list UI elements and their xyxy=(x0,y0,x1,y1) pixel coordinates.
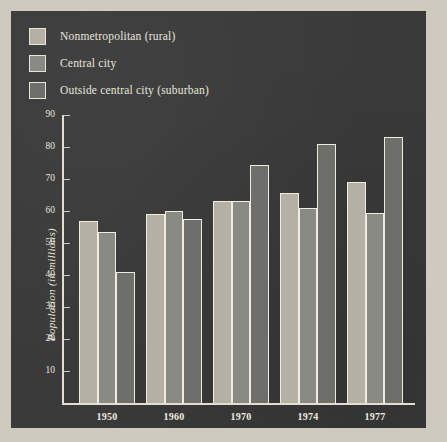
y-axis-line xyxy=(62,115,64,404)
y-axis-tick xyxy=(63,243,70,244)
x-axis-category-label: 1970 xyxy=(216,411,266,422)
y-axis-tick xyxy=(63,307,70,308)
bar xyxy=(384,137,403,403)
y-axis-tick xyxy=(63,147,70,148)
y-axis-tick xyxy=(63,115,70,116)
y-axis-tick-label: 80 xyxy=(37,141,55,151)
legend-label-central-city: Central city xyxy=(60,57,116,69)
legend-swatch-central-city xyxy=(29,55,46,72)
x-axis-category-label: 1974 xyxy=(283,411,333,422)
legend-item-nonmetropolitan: Nonmetropolitan (rural) xyxy=(29,24,209,48)
y-axis-tick xyxy=(63,275,70,276)
bar xyxy=(213,201,232,403)
y-axis-tick-label: 70 xyxy=(37,173,55,183)
bar xyxy=(98,232,117,403)
chart-page: Nonmetropolitan (rural) Central city Out… xyxy=(0,0,447,442)
x-axis-category-label: 1977 xyxy=(350,411,400,422)
legend-item-central-city: Central city xyxy=(29,51,209,75)
bar xyxy=(347,182,366,403)
legend-swatch-nonmetropolitan xyxy=(29,28,46,45)
bar xyxy=(116,272,135,403)
bar xyxy=(165,211,184,403)
bar xyxy=(250,165,269,403)
legend-label-nonmetropolitan: Nonmetropolitan (rural) xyxy=(60,30,175,42)
bar xyxy=(280,193,299,403)
chart-panel: Nonmetropolitan (rural) Central city Out… xyxy=(11,11,426,428)
y-axis-tick xyxy=(63,179,70,180)
bar xyxy=(146,214,165,403)
bar xyxy=(79,221,98,403)
bar xyxy=(366,213,385,403)
bar xyxy=(183,219,202,403)
y-axis-tick-label: 90 xyxy=(37,109,55,119)
legend-item-outside-central-city: Outside central city (suburban) xyxy=(29,78,209,102)
y-axis-tick xyxy=(63,371,70,372)
y-axis-tick-label: 10 xyxy=(37,365,55,375)
bar xyxy=(232,201,251,403)
bar xyxy=(317,144,336,403)
bar xyxy=(299,208,318,403)
x-axis-category-label: 1950 xyxy=(82,411,132,422)
y-axis-title: Population (in millions) xyxy=(45,228,57,341)
y-axis-tick-label: 60 xyxy=(37,205,55,215)
chart-legend: Nonmetropolitan (rural) Central city Out… xyxy=(29,24,209,105)
y-axis-tick xyxy=(63,211,70,212)
x-axis-line xyxy=(62,403,415,405)
y-axis-tick xyxy=(63,339,70,340)
legend-label-outside-central-city: Outside central city (suburban) xyxy=(60,84,209,96)
legend-swatch-outside-central-city xyxy=(29,82,46,99)
x-axis-category-label: 1960 xyxy=(149,411,199,422)
